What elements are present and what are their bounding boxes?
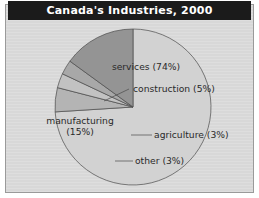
slice-label-other: other (3%) (135, 155, 184, 166)
slice-label-agriculture: agriculture (3%) (154, 129, 229, 140)
slice-label-services: services (74%) (112, 61, 180, 72)
pie-wedges-group (55, 29, 211, 185)
slice-label-manufacturing-line1: manufacturing (46, 115, 114, 126)
chart-title-bar: Canada's Industries, 2000 (8, 1, 251, 20)
pie-chart-figure: Canada's Industries, 2000 services (74%)… (0, 0, 259, 198)
pie-chart-canvas: services (74%) construction (5%) agricul… (0, 0, 259, 198)
slice-label-manufacturing-line2: (15%) (66, 126, 94, 137)
chart-title: Canada's Industries, 2000 (46, 4, 212, 17)
slice-label-construction: construction (5%) (133, 83, 215, 94)
